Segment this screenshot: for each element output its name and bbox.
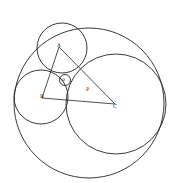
label-a: A [56, 42, 61, 48]
label-b: B [40, 93, 44, 99]
label-p: P [86, 86, 90, 92]
label-c: C [113, 103, 117, 109]
tangent-circles-diagram: A B C P ρ [0, 0, 175, 183]
outer-circle [14, 28, 164, 178]
label-small: ρ [62, 76, 65, 83]
segment-bc [42, 98, 115, 104]
circle-a [37, 23, 87, 73]
